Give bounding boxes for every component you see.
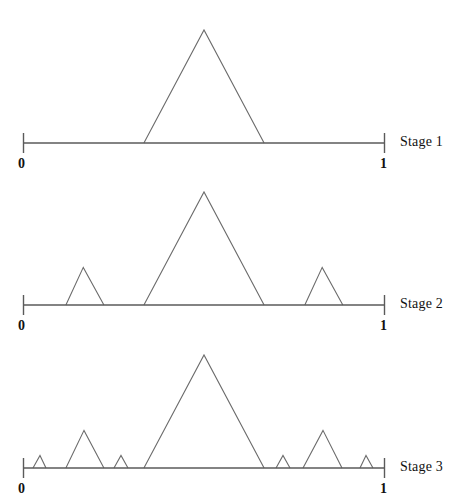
stage-3-curve-group [33, 355, 373, 468]
stage-2-plot [0, 170, 464, 340]
stage-3-label: Stage 3 [400, 459, 443, 475]
stage-1-label: Stage 1 [400, 134, 443, 150]
stage-1-plot [0, 0, 464, 170]
stage-3-tent-curve [33, 355, 373, 468]
stage-1-tent-curve [144, 30, 264, 143]
stage-3-tick-label-0: 0 [18, 481, 25, 497]
stage-3-tick-label-1: 1 [380, 481, 387, 497]
stage-2-tick-label-1: 1 [380, 318, 387, 334]
stage-2-label: Stage 2 [400, 296, 443, 312]
stage-3-plot [0, 334, 464, 504]
stage-1-curve-group [144, 30, 264, 143]
stage-2-curve-group [66, 192, 343, 305]
stage-2-tick-label-0: 0 [18, 318, 25, 334]
stage-2-tent-curve [66, 192, 343, 305]
tent-function-iteration-figure: Stage 1 0 1 Stage 2 0 1 Stage 3 0 1 [0, 0, 464, 504]
